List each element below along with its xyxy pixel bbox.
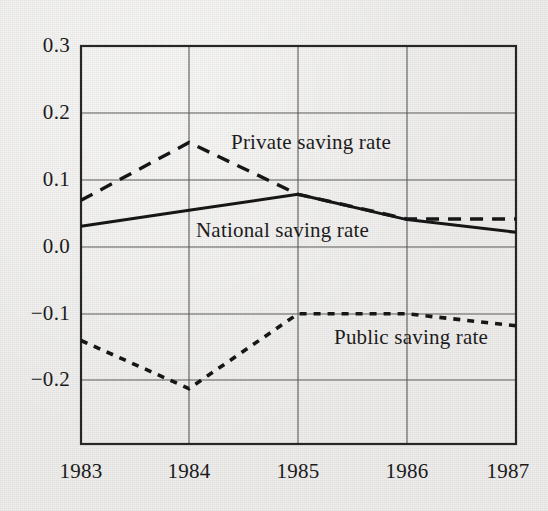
chart-plot	[0, 0, 548, 511]
x-tick-label-1986: 1986	[367, 459, 447, 484]
y-tick-label-5: −0.2	[0, 367, 70, 392]
y-tick-label-2: 0.1	[8, 167, 70, 192]
series-label-private: Private saving rate	[231, 130, 391, 155]
y-tick-label-3: 0.0	[8, 234, 70, 259]
x-tick-label-1984: 1984	[149, 459, 229, 484]
chart-figure: 0.3 0.2 0.1 0.0 −0.1 −0.2 1983 1984 1985…	[0, 0, 548, 511]
x-tick-label-1985: 1985	[258, 459, 338, 484]
x-tick-label-1987: 1987	[471, 459, 545, 484]
x-gridlines	[189, 46, 407, 444]
y-tick-label-0: 0.3	[8, 33, 70, 58]
series-label-national: National saving rate	[196, 218, 369, 243]
series-label-public: Public saving rate	[334, 325, 488, 350]
y-tick-label-1: 0.2	[8, 100, 70, 125]
y-tick-label-4: −0.1	[0, 301, 70, 326]
x-tick-label-1983: 1983	[41, 459, 121, 484]
